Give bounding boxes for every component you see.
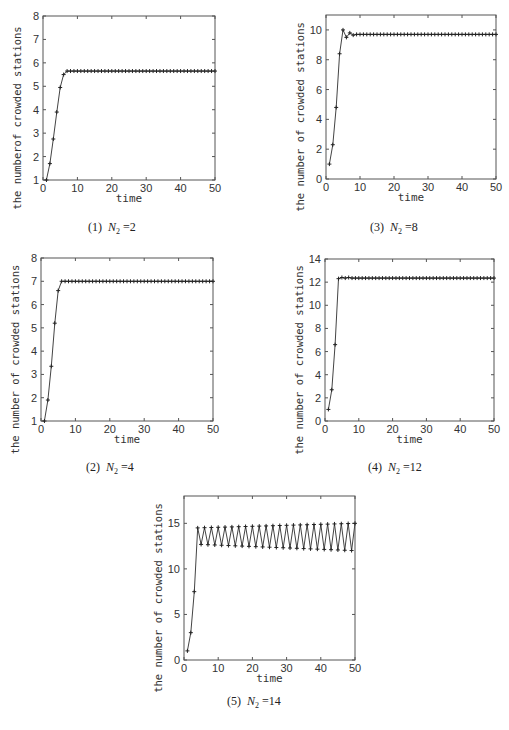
caption-variable: N xyxy=(247,694,255,708)
panel-caption: (5) N2 =14 xyxy=(227,694,281,710)
x-tick-label: 50 xyxy=(349,662,361,674)
y-tick-label: 15 xyxy=(168,517,180,529)
x-tick-label: 0 xyxy=(181,662,187,674)
caption-value: =14 xyxy=(259,694,281,708)
y-tick-label: 10 xyxy=(168,563,180,575)
x-axis-label: time xyxy=(256,672,283,685)
y-tick-label: 5 xyxy=(174,608,180,620)
caption-index: (5) xyxy=(227,694,241,708)
chart-5: 01020304050051015timethe number of crowd… xyxy=(0,0,509,730)
y-axis-label: the number of crowded stations xyxy=(152,503,164,693)
y-tick-label: 0 xyxy=(174,654,180,666)
x-tick-label: 40 xyxy=(315,662,327,674)
plot-area xyxy=(184,496,355,660)
x-tick-label: 10 xyxy=(212,662,224,674)
